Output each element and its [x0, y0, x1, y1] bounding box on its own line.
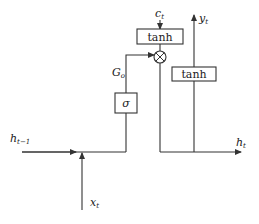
output-label: yt: [198, 12, 208, 26]
gate-to-multiply-arrow: [126, 55, 154, 93]
multiply-operator-icon: [154, 51, 166, 63]
hidden-label: ht: [236, 136, 246, 150]
prev-hidden-label: ht−1: [10, 132, 30, 146]
gate-label: Go: [112, 66, 125, 80]
cell-state-label: ct: [155, 7, 164, 21]
sigma-label: σ: [122, 97, 130, 110]
sigma-box: σ: [115, 93, 137, 113]
top-tanh-box: tanh: [137, 29, 183, 44]
lstm-output-gate-diagram: ct tanh Go σ: [0, 0, 259, 224]
input-label: xt: [90, 196, 99, 210]
right-tanh-label: tanh: [181, 68, 206, 81]
right-tanh-box: tanh: [172, 67, 216, 81]
top-tanh-label: tanh: [147, 31, 172, 44]
